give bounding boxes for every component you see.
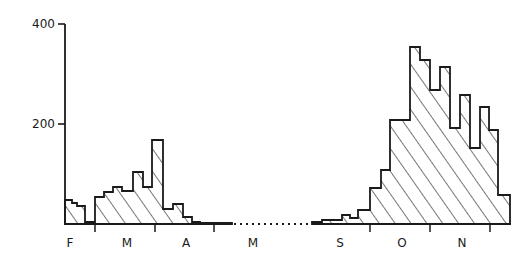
y-label-200: 200 [32,117,55,131]
month-label-mar: M [122,236,132,250]
month-label-apr: A [182,236,191,250]
bars [65,47,510,224]
month-label-may: M [248,236,258,250]
y-label-400: 400 [32,17,55,31]
histogram-chart: 400 200 F M A M S O N [0,0,530,264]
month-label-sep: S [336,236,344,250]
month-label-feb: F [67,236,74,250]
month-label-oct: O [397,236,406,250]
month-label-nov: N [458,236,467,250]
histogram-segment-2 [312,47,510,224]
histogram-segment-1 [65,140,232,224]
x-ticks [95,224,490,232]
